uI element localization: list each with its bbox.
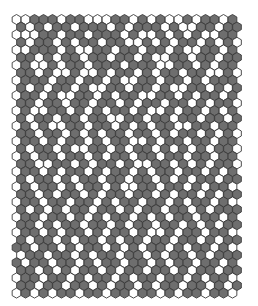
hex-cell-white[interactable] [48, 288, 57, 298]
hex-cell-gray[interactable] [84, 288, 93, 298]
hex-cell-white[interactable] [156, 288, 165, 298]
hex-cell-white[interactable] [228, 288, 237, 298]
hex-cell-gray[interactable] [183, 288, 192, 298]
hex-cell-white[interactable] [30, 288, 39, 298]
hex-cell-white[interactable] [174, 288, 183, 298]
hex-cell-gray[interactable] [21, 288, 30, 298]
hex-cell-white[interactable] [129, 288, 138, 298]
hex-cell-gray[interactable] [120, 288, 129, 298]
hex-cell-gray[interactable] [210, 288, 219, 298]
hex-cell-white[interactable] [75, 288, 84, 298]
hex-cell-gray[interactable] [111, 288, 120, 298]
hex-cell-gray[interactable] [39, 288, 48, 298]
hex-cell-gray[interactable] [138, 288, 147, 298]
hex-cell-gray[interactable] [165, 288, 174, 298]
hex-cell-gray[interactable] [192, 288, 201, 298]
hex-game-board[interactable] [0, 0, 258, 306]
hex-cells[interactable] [12, 15, 241, 299]
hex-cell-gray[interactable] [219, 288, 228, 298]
hex-cell-gray[interactable] [93, 288, 102, 298]
hex-cell-gray[interactable] [147, 288, 156, 298]
hex-cell-gray[interactable] [66, 288, 75, 298]
hex-cell-white[interactable] [201, 288, 210, 298]
hex-cell-gray[interactable] [57, 288, 66, 298]
hex-cell-white[interactable] [12, 288, 21, 298]
hex-cell-white[interactable] [102, 288, 111, 298]
